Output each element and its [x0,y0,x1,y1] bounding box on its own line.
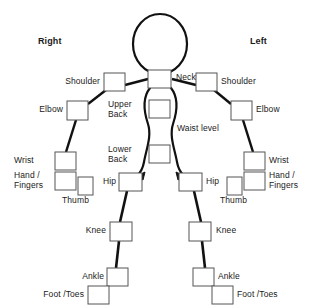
body-map-diagram: Right Left Neck Upper Back Lower Back Wa… [0,0,315,308]
connector-left-elbow-to-wrist [243,120,253,152]
header-right: Right [38,37,62,47]
torso-left-contour [137,88,150,176]
label-left-elbow: Elbow [256,105,280,115]
label-right-shoulder: Shoulder [54,77,100,87]
checkbox-neck[interactable] [148,70,171,88]
label-left-hand-fingers: Hand / Fingers [269,171,298,190]
connector-right-elbow-to-wrist [66,120,76,152]
head-shape [133,14,187,74]
label-right-wrist: Wrist [14,156,34,166]
connector-left-hip-to-knee [194,191,201,222]
label-left-shoulder: Shoulder [221,77,256,87]
label-left-foot-toes: Foot /Toes [237,290,278,300]
checkbox-right-wrist[interactable] [55,152,76,170]
checkbox-right-hand-fingers[interactable] [55,172,76,190]
label-right-knee: Knee [72,226,106,236]
checkbox-left-thumb[interactable] [227,177,242,195]
checkbox-left-wrist[interactable] [244,152,265,170]
label-right-hip: Hip [90,177,116,187]
label-right-thumb: Thumb [62,196,89,206]
checkbox-right-shoulder[interactable] [104,73,125,91]
header-left: Left [250,37,267,47]
label-right-hand-fingers: Hand / Fingers [14,171,43,190]
checkbox-right-foot-toes[interactable] [88,286,109,304]
checkbox-lower-back[interactable] [149,145,170,163]
checkbox-left-foot-toes[interactable] [212,286,233,304]
connector-right-knee-to-ankle [116,241,119,268]
checkbox-left-elbow[interactable] [231,101,252,120]
checkbox-right-hip[interactable] [119,173,142,191]
label-left-wrist: Wrist [269,156,289,166]
checkbox-left-shoulder[interactable] [196,73,217,91]
connector-right-hip-to-knee [120,191,127,222]
label-waist-level: Waist level [177,124,219,134]
checkbox-upper-back[interactable] [149,100,170,118]
connector-neck-to-right-shoulder [125,79,148,85]
label-left-hip: Hip [206,177,219,187]
label-right-foot-toes: Foot /Toes [24,290,84,300]
label-left-ankle: Ankle [218,272,240,282]
label-right-elbow: Elbow [27,105,63,115]
label-left-thumb: Thumb [220,196,247,206]
checkbox-left-ankle[interactable] [193,268,214,286]
checkbox-right-ankle[interactable] [107,268,128,286]
checkbox-right-knee[interactable] [110,222,132,241]
checkbox-left-hip[interactable] [179,173,202,191]
connector-left-knee-to-ankle [202,241,205,268]
checkbox-left-knee[interactable] [189,222,211,241]
label-lower-back: Lower Back [108,145,132,164]
connector-left-shoulder-to-elbow [214,90,231,104]
label-neck: Neck [176,73,196,83]
checkbox-left-hand-fingers[interactable] [244,172,265,190]
checkbox-right-elbow[interactable] [67,101,88,120]
label-left-knee: Knee [216,226,236,236]
label-upper-back: Upper Back [108,100,132,119]
label-right-ankle: Ankle [65,272,104,282]
connector-right-shoulder-to-elbow [88,90,106,104]
